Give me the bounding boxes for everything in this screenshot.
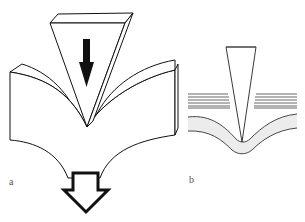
panel-b-label: b <box>189 175 194 185</box>
figure-canvas <box>0 0 305 222</box>
panel-b-wedge <box>226 47 256 142</box>
panel-b-stripes-left <box>188 94 230 108</box>
panel-a-label: a <box>9 177 13 187</box>
hollow-down-arrow-icon <box>64 173 108 212</box>
panel-b-stripes-right <box>254 94 297 108</box>
